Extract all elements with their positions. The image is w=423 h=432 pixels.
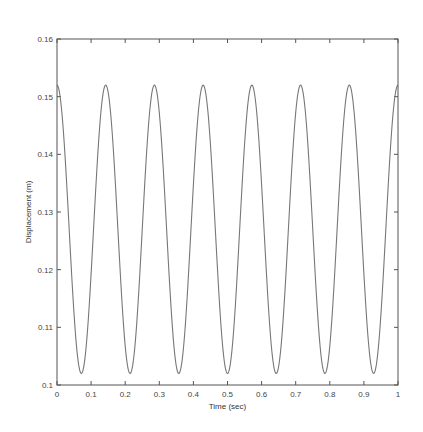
x-tick-label: 0 bbox=[55, 390, 60, 399]
x-tick-label: 0.2 bbox=[120, 390, 132, 399]
y-tick-label: 0.14 bbox=[37, 150, 53, 159]
x-tick-label: 0.1 bbox=[86, 390, 98, 399]
y-tick-label: 0.12 bbox=[37, 266, 53, 275]
y-tick-label: 0.1 bbox=[42, 381, 54, 390]
x-tick-label: 0.7 bbox=[290, 390, 302, 399]
x-tick-label: 0.6 bbox=[256, 390, 268, 399]
y-tick-label: 0.16 bbox=[37, 35, 53, 44]
y-tick-label: 0.15 bbox=[37, 93, 53, 102]
x-tick-label: 0.5 bbox=[222, 390, 234, 399]
y-axis-label: Displacement (m) bbox=[24, 180, 33, 243]
y-tick-label: 0.13 bbox=[37, 208, 53, 217]
displacement-chart: 0.10.110.120.130.140.150.16 00.10.20.30.… bbox=[0, 0, 423, 432]
x-tick-label: 0.4 bbox=[188, 390, 200, 399]
x-tick-label: 1 bbox=[396, 390, 401, 399]
y-tick-label: 0.11 bbox=[38, 323, 54, 332]
x-tick-label: 0.3 bbox=[154, 390, 166, 399]
x-axis-label: Time (sec) bbox=[209, 402, 247, 411]
x-tick-label: 0.9 bbox=[358, 390, 370, 399]
y-axis-ticks: 0.10.110.120.130.140.150.16 bbox=[37, 35, 398, 390]
displacement-line bbox=[57, 85, 398, 373]
x-axis-ticks: 00.10.20.30.40.50.60.70.80.91 bbox=[55, 39, 401, 399]
x-tick-label: 0.8 bbox=[324, 390, 336, 399]
